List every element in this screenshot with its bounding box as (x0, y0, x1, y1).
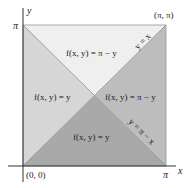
region-top-label: f(x, y) = π − y (66, 48, 117, 58)
diagram: y x π π (0, 0) (π, π) f(x, y) = π − y f(… (0, 0, 194, 188)
region-bottom-label: f(x, y) = y (73, 132, 110, 142)
y-tick-pi: π (13, 20, 19, 31)
region-right-label: f(x, y) = π − y (105, 92, 156, 102)
x-tick-pi: π (163, 169, 169, 180)
y-axis-label: y (26, 5, 32, 16)
corner-label: (π, π) (154, 10, 174, 20)
origin-label: (0, 0) (26, 170, 46, 180)
region-left-label: f(x, y) = y (34, 92, 71, 102)
x-axis-label: x (177, 165, 183, 176)
